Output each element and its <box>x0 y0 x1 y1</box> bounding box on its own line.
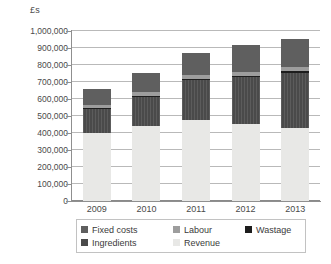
legend-item-labour[interactable]: Labour <box>173 225 245 235</box>
y-axis-tick-label: 200,000 <box>0 163 68 172</box>
y-axis-tick-label: 500,000 <box>0 112 68 121</box>
y-axis-tick-label: 1,000,000 <box>0 27 68 36</box>
legend-swatch-icon <box>245 226 252 233</box>
segment-fixed-costs <box>83 89 111 105</box>
segment-fixed-costs <box>182 53 210 75</box>
y-axis-tick-mark <box>66 82 71 83</box>
y-axis-tick-label: 600,000 <box>0 95 68 104</box>
y-axis-tick-mark <box>66 48 71 49</box>
legend-item-label: Wastage <box>256 225 291 235</box>
y-axis-tick-label: 100,000 <box>0 180 68 189</box>
segment-fixed-costs <box>132 73 160 93</box>
segment-wastage <box>281 71 309 72</box>
y-axis-tick-mark <box>66 167 71 168</box>
legend-item-label: Ingredients <box>92 238 137 248</box>
legend-swatch-icon <box>173 226 180 233</box>
segment-labour <box>132 92 160 95</box>
segment-wastage <box>83 108 111 109</box>
legend-item-fixed-costs[interactable]: Fixed costs <box>81 225 173 235</box>
plot-area <box>72 31 320 201</box>
y-axis-tick-mark <box>66 31 71 32</box>
x-axis-tick-label: 2011 <box>173 204 219 214</box>
legend-swatch-icon <box>173 239 180 246</box>
segment-revenue <box>83 133 111 201</box>
segment-ingredients <box>182 80 210 119</box>
legend-item-ingredients[interactable]: Ingredients <box>81 238 173 248</box>
legend-item-wastage[interactable]: Wastage <box>245 225 291 235</box>
bar-2011 <box>182 53 210 201</box>
x-axis-tick-label: 2010 <box>123 204 169 214</box>
segment-revenue <box>232 124 260 201</box>
segment-fixed-costs <box>232 45 260 71</box>
segment-wastage <box>132 96 160 97</box>
legend-item-label: Fixed costs <box>92 225 138 235</box>
y-axis-tick-label: 300,000 <box>0 146 68 155</box>
bar-2009 <box>83 89 111 201</box>
y-axis-tick-label: 0 <box>0 197 68 206</box>
legend-row: IngredientsRevenue <box>81 236 301 249</box>
y-axis-tick-mark <box>66 65 71 66</box>
x-axis-line <box>71 201 321 202</box>
legend-item-label: Labour <box>184 225 212 235</box>
gridline <box>72 30 320 31</box>
y-axis-tick-mark <box>66 99 71 100</box>
x-axis-tick-label: 2012 <box>223 204 269 214</box>
legend-swatch-icon <box>81 226 88 233</box>
segment-ingredients <box>132 96 160 126</box>
chart-legend: Fixed costsLabourWastageIngredientsReven… <box>76 219 306 253</box>
segment-revenue <box>132 126 160 201</box>
y-axis-tick-label: 700,000 <box>0 78 68 87</box>
y-axis-tick-mark <box>66 133 71 134</box>
bar-2013 <box>281 39 309 201</box>
legend-item-label: Revenue <box>184 238 220 248</box>
segment-ingredients <box>281 73 309 128</box>
y-axis-tick-label: 800,000 <box>0 61 68 70</box>
legend-swatch-icon <box>81 239 88 246</box>
x-axis-tick-label: 2009 <box>74 204 120 214</box>
segment-ingredients <box>83 108 111 133</box>
segment-revenue <box>281 128 309 201</box>
bar-2012 <box>232 45 260 201</box>
legend-item-revenue[interactable]: Revenue <box>173 238 220 248</box>
y-axis-tick-mark <box>66 150 71 151</box>
y-axis-tick-mark <box>66 116 71 117</box>
segment-labour <box>281 67 309 71</box>
x-axis-tick-label: 2013 <box>272 204 318 214</box>
segment-revenue <box>182 120 210 201</box>
legend-row: Fixed costsLabourWastage <box>81 223 301 236</box>
segment-fixed-costs <box>281 39 309 67</box>
segment-ingredients <box>232 77 260 123</box>
segment-labour <box>182 75 210 79</box>
segment-labour <box>232 72 260 76</box>
y-axis-title: £s <box>30 5 40 15</box>
stacked-bar-chart: £s 0100,000200,000300,000400,000500,0006… <box>0 0 331 264</box>
y-axis-tick-mark <box>66 184 71 185</box>
y-axis-tick-label: 400,000 <box>0 129 68 138</box>
segment-labour <box>83 105 111 108</box>
segment-wastage <box>182 79 210 80</box>
segment-wastage <box>232 76 260 77</box>
y-axis-tick-mark <box>66 201 71 202</box>
bar-2010 <box>132 73 160 201</box>
y-axis-tick-label: 900,000 <box>0 44 68 53</box>
